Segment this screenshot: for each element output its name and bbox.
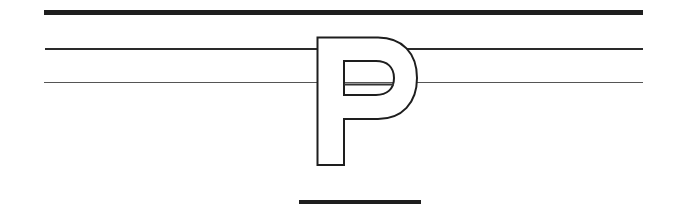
top-thick-line	[44, 10, 643, 15]
underline-bar	[299, 200, 421, 204]
letter-p-outline	[316, 36, 420, 168]
